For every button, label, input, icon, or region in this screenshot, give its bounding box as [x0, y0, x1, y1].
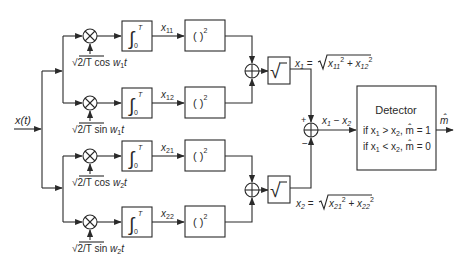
- square-output: [225, 198, 252, 222]
- output-label: m̂: [440, 113, 448, 126]
- branch-22: √2/T sin w2t∫T0x22( )2: [63, 198, 252, 255]
- detector-title: Detector: [375, 104, 417, 116]
- svg-text:x212 + x222: x212 + x222: [328, 196, 374, 210]
- correlator-output-label: x22: [160, 208, 174, 220]
- svg-text:T: T: [138, 210, 143, 217]
- square-block: [185, 206, 225, 237]
- adder-upper: [245, 64, 259, 78]
- reference-signal-label: √2/T cos w2t: [72, 177, 128, 189]
- svg-text:0: 0: [134, 228, 138, 235]
- multiplier-icon: [83, 215, 97, 229]
- sqrt-icon: √: [270, 61, 281, 82]
- correlator-output-label: x21: [160, 142, 174, 154]
- svg-text:0: 0: [134, 42, 138, 49]
- x2-expression: x2 = x212 + x222: [295, 195, 374, 210]
- square-block: [185, 140, 225, 171]
- x1-expression: x1 = x112 + x122: [294, 55, 372, 70]
- square-block: [185, 20, 225, 51]
- svg-text:0: 0: [134, 109, 138, 116]
- branch-12: √2/T sin w1t∫T0x12( )2: [63, 79, 252, 136]
- plus-sign: +: [301, 115, 306, 125]
- minus-sign: −: [302, 138, 308, 149]
- multiplier-icon: [83, 29, 97, 43]
- diff-label: x1 − x2: [321, 115, 351, 127]
- svg-text:x2 =: x2 =: [295, 198, 314, 210]
- adder-lower: [245, 183, 259, 197]
- multiplier-icon: [83, 149, 97, 163]
- svg-text:T: T: [138, 24, 143, 31]
- reference-signal-label: √2/T sin w2t: [72, 243, 125, 255]
- correlation-receiver-diagram: x(t) √2/T cos w1t∫T0x11( )2√2/T sin w1t∫…: [0, 0, 465, 275]
- reference-signal-label: √2/T sin w1t: [72, 124, 125, 136]
- branch-21: √2/T cos w2t∫T0x21( )2: [63, 140, 252, 189]
- reference-signal-label: √2/T cos w1t: [72, 57, 128, 69]
- svg-text:x112 + x122: x112 + x122: [327, 56, 372, 70]
- square-output: [225, 156, 252, 182]
- square-output: [225, 79, 252, 103]
- branch-11: √2/T cos w1t∫T0x11( )2: [63, 20, 252, 69]
- x2-wire: [290, 138, 311, 188]
- sqrt-icon: √: [270, 180, 281, 201]
- correlator-output-label: x12: [160, 89, 174, 101]
- svg-text:T: T: [138, 91, 143, 98]
- multiplier-icon: [83, 96, 97, 110]
- svg-text:0: 0: [134, 162, 138, 169]
- svg-text:T: T: [138, 144, 143, 151]
- subtractor: [304, 123, 318, 137]
- svg-text:x1 =: x1 =: [294, 58, 313, 70]
- square-block: [185, 87, 225, 118]
- correlator-output-label: x11: [160, 22, 173, 34]
- square-output: [225, 36, 252, 63]
- input-label: x(t): [14, 114, 31, 126]
